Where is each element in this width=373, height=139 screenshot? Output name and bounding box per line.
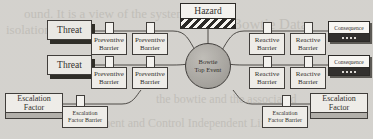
- preventive-barrier-2[interactable]: Preventive Barrier: [132, 33, 168, 55]
- escalation-factor-node-left[interactable]: Escalation Factor: [5, 93, 63, 119]
- escalation-factor-node-right[interactable]: Escalation Factor: [310, 93, 368, 119]
- threat-label-1: Threat: [57, 25, 82, 35]
- top-event-node[interactable]: Bowtie Top Event: [185, 43, 231, 89]
- preventive-barrier-1-line1: Preventive: [94, 36, 124, 45]
- top-event-label-line1: Bowtie: [199, 58, 218, 66]
- reactive-barrier-3[interactable]: Reactive Barrier: [249, 67, 285, 89]
- threat-node-2[interactable]: Threat: [47, 55, 92, 75]
- consequence-led-icon: [342, 37, 344, 39]
- reactive-barrier-2-line1: Reactive: [296, 36, 321, 45]
- escalation-factor-label-left: Escalation Factor: [6, 94, 62, 112]
- escalation-factor-barrier-left[interactable]: Escalation Factor Barrier: [62, 106, 108, 128]
- consequence-monitor-base-1: [329, 33, 369, 41]
- escalation-factor-right-line2: Factor: [329, 103, 349, 112]
- consequence-led-icon: [342, 71, 344, 73]
- preventive-barrier-2-line1: Preventive: [135, 36, 165, 45]
- consequence-led-icon: [346, 71, 348, 73]
- preventive-barrier-3[interactable]: Preventive Barrier: [91, 67, 127, 89]
- reactive-barrier-3-line1: Reactive: [255, 70, 280, 79]
- reactive-barrier-4-line2: Barrier: [298, 78, 318, 87]
- consequence-node-1[interactable]: Consequence: [328, 21, 370, 42]
- preventive-barrier-2-line2: Barrier: [140, 44, 160, 53]
- escalation-factor-barrier-left-line2: Factor Barrier: [68, 117, 102, 125]
- reactive-barrier-2[interactable]: Reactive Barrier: [290, 33, 326, 55]
- consequence-led-icon: [350, 37, 352, 39]
- preventive-barrier-1[interactable]: Preventive Barrier: [91, 33, 127, 55]
- preventive-barrier-3-line2: Barrier: [99, 78, 119, 87]
- preventive-barrier-1-line2: Barrier: [99, 44, 119, 53]
- reactive-barrier-2-line2: Barrier: [298, 44, 318, 53]
- escalation-factor-right-line1: Escalation: [322, 94, 355, 103]
- escalation-factor-label-right: Escalation Factor: [311, 94, 367, 112]
- escalation-factor-barrier-right-line1: Escalation: [273, 110, 298, 118]
- hazard-node[interactable]: Hazard: [180, 3, 236, 29]
- reactive-barrier-4-line1: Reactive: [296, 70, 321, 79]
- consequence-led-icon: [354, 37, 356, 39]
- threat-node-1[interactable]: Threat: [47, 20, 92, 40]
- escalation-factor-barrier-right-line2: Factor Barrier: [268, 117, 302, 125]
- consequence-led-icon: [354, 71, 356, 73]
- consequence-label-2: Consequence: [329, 56, 369, 67]
- preventive-barrier-4[interactable]: Preventive Barrier: [132, 67, 168, 89]
- consequence-monitor-base-2: [329, 67, 369, 75]
- escalation-factor-left-line2: Factor: [24, 103, 44, 112]
- escalation-factor-left-line1: Escalation: [17, 94, 50, 103]
- escalation-factor-barrier-right[interactable]: Escalation Factor Barrier: [262, 106, 308, 128]
- reactive-barrier-1-line1: Reactive: [255, 36, 280, 45]
- hazard-stripe-band: [181, 18, 235, 28]
- preventive-barrier-4-line1: Preventive: [135, 70, 165, 79]
- top-event-label-line2: Top Event: [195, 66, 222, 74]
- threat-label-2: Threat: [57, 60, 82, 70]
- bowtie-diagram-canvas: ound. It is a view of the system from th…: [0, 0, 373, 139]
- reactive-barrier-1-line2: Barrier: [257, 44, 277, 53]
- escalation-factor-barrier-left-line1: Escalation: [73, 110, 98, 118]
- reactive-barrier-4[interactable]: Reactive Barrier: [290, 67, 326, 89]
- reactive-barrier-3-line2: Barrier: [257, 78, 277, 87]
- consequence-label-1: Consequence: [329, 22, 369, 33]
- preventive-barrier-3-line1: Preventive: [94, 70, 124, 79]
- consequence-led-icon: [346, 37, 348, 39]
- reactive-barrier-1[interactable]: Reactive Barrier: [249, 33, 285, 55]
- consequence-node-2[interactable]: Consequence: [328, 55, 370, 76]
- escalation-factor-left-base: [6, 112, 62, 118]
- preventive-barrier-4-line2: Barrier: [140, 78, 160, 87]
- escalation-factor-right-base: [311, 112, 367, 118]
- hazard-label: Hazard: [181, 4, 235, 18]
- consequence-led-icon: [350, 71, 352, 73]
